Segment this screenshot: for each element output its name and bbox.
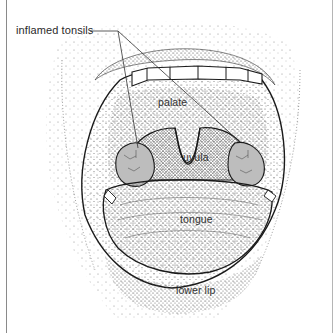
- label-palate: palate: [158, 97, 187, 108]
- mouth-illustration: [0, 0, 336, 333]
- illustration-frame: inflamed tonsils palate uvula tongue low…: [0, 0, 336, 333]
- label-tongue: tongue: [180, 214, 213, 225]
- left-tonsil: [116, 143, 155, 187]
- label-inflamed-tonsils: inflamed tonsils: [16, 25, 93, 36]
- label-lower-lip: lower lip: [176, 285, 215, 296]
- label-uvula: uvula: [183, 152, 209, 163]
